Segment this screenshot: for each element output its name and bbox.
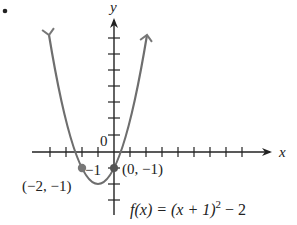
- function-label: f(x) = (x + 1)2 − 2: [130, 198, 246, 219]
- y-axis: [108, 20, 120, 215]
- point-0-neg1: [110, 164, 118, 172]
- y-axis-label: y: [108, 0, 117, 15]
- graph: y x 0 −1 (0, −1) (−2, −1) f(x) = (x + 1)…: [0, 0, 297, 225]
- point-left-label: (−2, −1): [22, 178, 71, 195]
- point-right-label: (0, −1): [122, 161, 163, 178]
- svg-text:f(x) = (x + 1)2 − 2: f(x) = (x + 1)2 − 2: [130, 198, 246, 219]
- bullet-icon: [3, 9, 8, 14]
- origin-label: 0: [100, 133, 108, 149]
- minus-one-label: −1: [85, 162, 101, 178]
- x-axis: [32, 147, 270, 157]
- x-axis-label: x: [278, 144, 286, 160]
